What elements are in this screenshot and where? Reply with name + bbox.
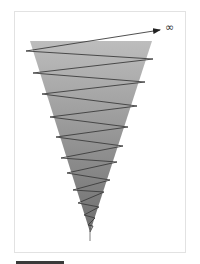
cone-shape [30, 41, 152, 232]
spiral-cone-diagram [0, 0, 200, 264]
infinity-label: ∞ [165, 22, 174, 34]
